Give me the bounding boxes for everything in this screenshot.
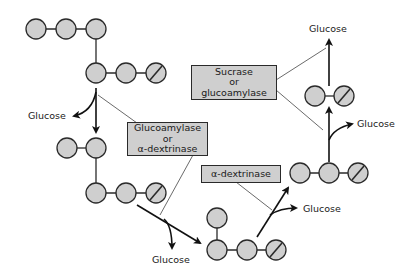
enzyme-box-sucrase-or-glucoamylase: Sucrase or glucoamylase xyxy=(191,65,277,100)
enzyme-name: α-dextrinase xyxy=(138,144,198,155)
product-label-glucose: Glucose xyxy=(357,119,395,129)
step2-arrows xyxy=(137,205,200,248)
leader-glucoamylase-to-step2 xyxy=(160,155,193,215)
leader-dextrinase xyxy=(236,182,272,210)
step1-arrows xyxy=(74,88,96,132)
glucose-unit xyxy=(319,163,339,183)
leader-sucrase-to-top xyxy=(276,48,326,80)
glucose-unit xyxy=(207,240,227,260)
enzyme-box-glucoamylase-or-a-dextrinase: Glucoamylase or α-dextrinase xyxy=(127,122,208,156)
glucose-unit xyxy=(116,63,136,83)
molecule-disaccharide xyxy=(305,86,354,106)
leader-glucoamylase-to-step1 xyxy=(98,95,137,123)
enzyme-name: glucoamylase xyxy=(201,88,267,99)
arrow-glucose-release-4 xyxy=(329,124,352,140)
product-label-glucose: Glucose xyxy=(152,255,190,265)
digestion-pathway-diagram xyxy=(0,0,419,280)
glucose-unit xyxy=(86,138,106,158)
product-label-glucose: Glucose xyxy=(309,24,347,34)
glucose-unit xyxy=(86,183,106,203)
glucose-unit xyxy=(26,19,46,39)
glucose-unit xyxy=(86,19,106,39)
step3-arrows xyxy=(257,188,296,237)
enzyme-name: α-dextrinase xyxy=(211,169,271,180)
product-label-glucose: Glucose xyxy=(303,204,341,214)
glucose-unit xyxy=(116,183,136,203)
glucose-unit xyxy=(290,163,310,183)
enzyme-box-a-dextrinase: α-dextrinase xyxy=(201,165,281,183)
molecule-trisaccharide xyxy=(290,163,368,183)
glucose-unit xyxy=(207,208,227,228)
glucose-unit xyxy=(305,86,325,106)
glucose-unit xyxy=(56,19,76,39)
glucose-unit xyxy=(86,63,106,83)
arrow-glucose-release-2 xyxy=(164,219,172,248)
product-label-glucose: Glucose xyxy=(28,111,66,121)
glucose-unit xyxy=(237,240,257,260)
step4-arrows xyxy=(329,108,352,162)
molecule-branched-oligosaccharide-1 xyxy=(26,19,166,83)
arrow-glucose-release-1 xyxy=(74,92,96,116)
molecule-branched-oligosaccharide-3 xyxy=(207,208,286,260)
glucose-unit xyxy=(57,138,77,158)
